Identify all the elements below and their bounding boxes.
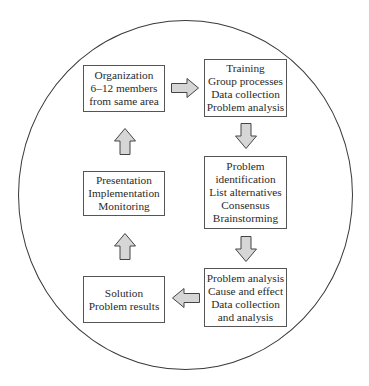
step-line: Presentation bbox=[96, 174, 152, 187]
step-solution: Solution Problem results bbox=[83, 276, 165, 323]
step-line: from same area bbox=[89, 95, 159, 108]
arrow-down-icon bbox=[235, 123, 257, 149]
step-line: List alternatives bbox=[209, 186, 281, 199]
arrow-up-icon bbox=[114, 233, 136, 260]
step-line: Group processes bbox=[208, 75, 283, 88]
step-training: Training Group processes Data collection… bbox=[204, 59, 287, 117]
step-line: Consensus bbox=[221, 199, 269, 212]
step-line: Cause and effect bbox=[208, 285, 283, 298]
step-line: Organization bbox=[95, 69, 154, 82]
step-organization: Organization 6–12 members from same area bbox=[83, 65, 165, 112]
step-line: Data collection bbox=[211, 88, 280, 101]
step-line: Problem results bbox=[89, 300, 160, 313]
step-line: identification bbox=[215, 173, 275, 186]
arrow-right-icon bbox=[171, 78, 199, 98]
step-line: Monitoring bbox=[98, 200, 149, 213]
step-line: Implementation bbox=[88, 187, 160, 200]
step-problem-identification: Problem identification List alternatives… bbox=[204, 156, 287, 229]
step-presentation: Presentation Implementation Monitoring bbox=[83, 171, 165, 216]
step-line: Problem bbox=[226, 160, 264, 173]
arrow-left-icon bbox=[172, 288, 200, 308]
cycle-circle bbox=[18, 20, 353, 370]
step-line: Solution bbox=[105, 287, 143, 300]
step-line: Training bbox=[226, 62, 265, 75]
step-line: and analysis bbox=[218, 311, 274, 324]
arrow-down-icon bbox=[235, 236, 257, 262]
step-line: Problem analysis bbox=[207, 272, 285, 285]
step-line: 6–12 members bbox=[91, 82, 158, 95]
step-line: Problem analysis bbox=[207, 101, 285, 114]
step-line: Data collection bbox=[211, 298, 280, 311]
arrow-up-icon bbox=[114, 128, 136, 155]
step-problem-analysis: Problem analysis Cause and effect Data c… bbox=[204, 268, 287, 327]
step-line: Brainstorming bbox=[213, 212, 278, 225]
